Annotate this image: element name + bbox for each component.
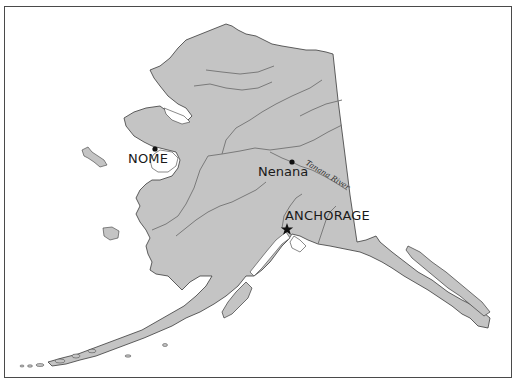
anchorage-label: ANCHORAGE	[285, 209, 370, 222]
alaska-mainland	[48, 24, 490, 366]
nome-label: NOME	[128, 152, 168, 165]
nenana-label: Nenana	[258, 165, 308, 178]
prince-william-sound	[290, 236, 306, 252]
alaska-map	[0, 0, 516, 383]
nunivak-island	[103, 227, 119, 240]
st-lawrence-island	[82, 147, 107, 167]
